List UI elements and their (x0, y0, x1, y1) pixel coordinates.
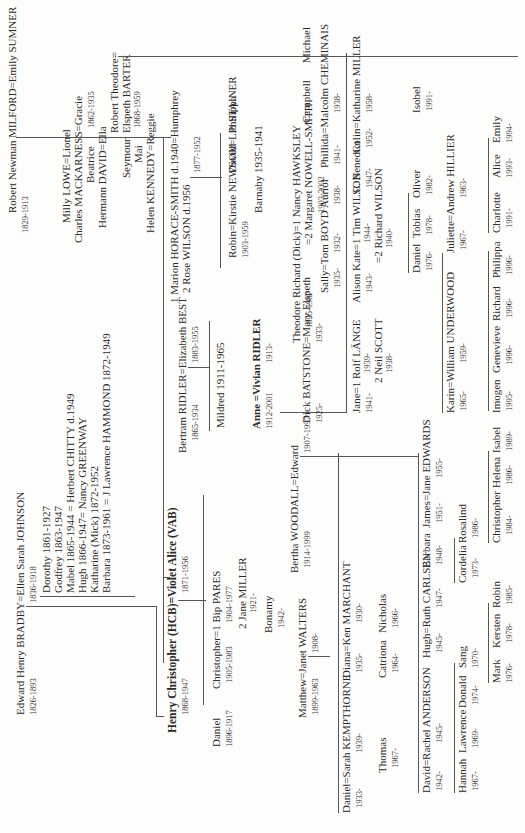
bertha-dates: 1914-1999 (302, 531, 312, 568)
jane-miller-dates: 1921- (248, 593, 258, 613)
bradby-child-2: Godfrey 1863-1947 (52, 506, 64, 593)
alice-dates: 1993- (504, 158, 514, 178)
mildred: Mildred 1911-1965 (214, 343, 226, 428)
christopher-dates: 1905-1983 (224, 646, 234, 683)
hugh-ruth: Hugh=Ruth CARLSEN (420, 553, 432, 658)
bertram-couple: Bertram RIDLER=Elizabeth BEST (176, 297, 188, 453)
jane-rolf: Jane=1 Rolf LÄNGE (350, 319, 362, 413)
bradby-wife-dates: 1836-1918 (28, 566, 38, 603)
jane-miller: 2 Jane MILLER (236, 558, 248, 629)
theodore-gc-bar (346, 53, 347, 413)
lawrence-dates: 1969- (470, 728, 480, 748)
bertram-children-line (188, 367, 210, 368)
james-dates: 1951- (434, 503, 444, 523)
alison-children-bar (408, 193, 409, 273)
jane-edwards-dates: 1955- (434, 458, 444, 478)
milford-child-4: Hermann DAVID=Ella (96, 126, 108, 228)
thomas: Thomas (376, 738, 388, 773)
emily-dates: 1994- (504, 123, 514, 143)
neil-scott: 2 Neil SCOTT (372, 318, 384, 383)
christopher-b: Christopher (490, 491, 502, 543)
benedict-dates: 1947- (364, 168, 374, 188)
milford-couple: Robert Newman MILFORD=Emily SUMNER (6, 7, 18, 213)
matthew: Matthew=Janet WALTERS (296, 598, 308, 718)
cordelia-dates: 1973- (470, 558, 480, 578)
jane-children-bar (442, 253, 443, 413)
philippa: Philippa (226, 96, 238, 133)
philippa-u: Philippa (490, 241, 502, 278)
sally-dates: 1935- (332, 268, 342, 288)
dick-batstone: Dick BATSTONE=Mary Elspeth (300, 277, 312, 423)
ruth-dates: 1947- (434, 588, 444, 608)
humphrey-children-bar (220, 133, 221, 268)
daniel-w-dates: 1976- (424, 251, 434, 271)
hannah-dates: 1967- (470, 771, 480, 791)
katharine-dates: 1958- (364, 93, 374, 113)
bradby-descent-line (26, 606, 156, 607)
jane-dates: 1941- (364, 393, 374, 413)
milford-child-1: Milly LOWE=Lionel (60, 129, 72, 223)
colin-dates: 1952- (364, 128, 374, 148)
robin-dates: 1903-1959 (240, 221, 250, 258)
rachel-dates: 1945- (434, 723, 444, 743)
barbara-dates: 1948- (434, 545, 444, 565)
robert-theodore-dates: 1862-1935 (86, 91, 96, 128)
milford-child-7: Helen KENNEDY=Reggie (144, 113, 156, 233)
imogen-dates: 1995- (504, 391, 514, 411)
kersten: Kersten (490, 614, 502, 648)
rolf-dates: 1939- (362, 353, 372, 373)
colin: Colin=Katharine MILLER (350, 35, 362, 153)
andrew-dates: 1963- (458, 178, 468, 198)
david-dates: 1942- (434, 771, 444, 791)
genevieve: Genevieve (490, 326, 502, 373)
neil-dates: 1938- (384, 353, 394, 373)
mark-dates: 1976- (504, 663, 514, 683)
oliver-dates: 1982- (424, 175, 434, 195)
malcolm-dates: 1938- (332, 93, 342, 113)
theodore-stub (115, 56, 116, 57)
elspeth-barter: Elspeth BARTER (120, 55, 132, 133)
oliver: Oliver (410, 170, 422, 198)
charlotte-dates: 1991- (504, 208, 514, 228)
isabel: Isabel (490, 427, 502, 453)
bradby-husband-dates: 1826-1893 (28, 678, 38, 715)
lawrence: Lawrence (456, 710, 468, 753)
sang-dates: 1970- (470, 648, 480, 668)
bonamy-dates: 1942- (276, 608, 286, 628)
christopher: Christopher=1 Bip PARES (210, 571, 222, 689)
bertram-children-bar (209, 321, 210, 431)
daniel-1896-dates: 1896-1917 (224, 710, 234, 747)
cordelia: Cordelia (456, 545, 468, 583)
imogen: Imogen (490, 379, 502, 413)
bertha: Bertha WOODALL=Edward (288, 445, 300, 573)
richard-wilson-dates: 1940- (384, 228, 394, 248)
milford-child-5: Seymour (120, 138, 132, 178)
sally: Sally=Tom BOYD (318, 210, 330, 293)
daniel-sarah: Daniel=Sarah KEMPTHORNE (340, 675, 352, 814)
milford-dates: 1829-1913 (20, 196, 30, 233)
elizabeth-dates: 1883-1955 (190, 326, 200, 363)
bertram-dates: 1865-1934 (190, 404, 200, 441)
nicholas: Nicholas (376, 594, 388, 633)
ken-dates: 1930- (354, 603, 364, 623)
kersten-dates: 1978- (504, 623, 514, 643)
woodall-children-bar (418, 453, 419, 793)
juliette-children-bar (488, 138, 489, 233)
david-children-bar (454, 663, 455, 793)
william-dates: 1959- (458, 343, 468, 363)
campbell: Campbell (300, 80, 312, 123)
james: James=Jane EDWARDS (420, 419, 432, 528)
isobel-dates: 1991- (424, 91, 434, 111)
daniel-1896: Daniel (210, 718, 222, 747)
diana: Diana=Ken MARCHANT (340, 562, 352, 679)
humphrey-dates: 1877-1952 (192, 136, 202, 173)
nicholas-dates: 1966- (390, 608, 400, 628)
karin: Karin=William UNDERWOOD (444, 272, 456, 413)
hcb-children-bar (203, 495, 204, 705)
vab-dates: 1871-1956 (180, 556, 190, 593)
bradby-child-3: Mabel 1865-1944 = Herbert CHITTY d.1949 (64, 394, 76, 593)
bradby-child-4: Hugh 1866-1947= Nancy GREENWAY (76, 417, 88, 593)
matthew-dates: 1899-1963 (310, 678, 320, 715)
tobias: Tobias (410, 209, 422, 238)
juliette: Juliette=Andrew HILLIER (444, 134, 456, 253)
